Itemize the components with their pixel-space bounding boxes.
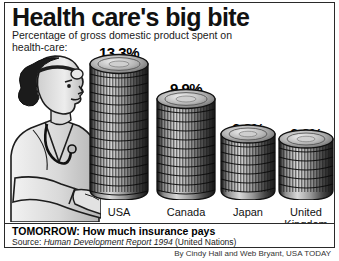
coin-stack-usa [88,50,150,200]
source-suffix: (United Nations) [173,237,237,247]
label-line-1: United [290,206,322,218]
tomorrow-banner: TOMORROW: How much insurance pays [5,223,334,237]
bar-label-japan: Japan [233,207,263,219]
page-title: Health care's big bite [12,4,249,30]
coin-stack-canada [155,86,217,200]
coin-stack-japan [219,122,277,200]
coin-stack-united-kingdom [277,127,335,200]
bar-label-canada: Canada [167,207,206,219]
infographic-root: Health care's big bite Percentage of gro… [0,0,339,261]
bar-group-japan: 6.8% Japan [219,44,277,222]
bar-group-united-kingdom: 6.6% United Kingdom United [277,44,335,222]
tomorrow-text: TOMORROW: How much insurance pays [12,225,215,237]
bar-group-canada: 9.9% Canada [155,44,217,222]
source-line: Source: Human Development Report 1994 (U… [12,237,236,247]
source-prefix: Source: [12,237,44,247]
source-report-title: Human Development Report 1994 [44,237,173,247]
credit-line: By Cindy Hall and Web Bryant, USA TODAY [0,249,339,258]
coin-chart-plot: 13.3% [5,44,334,222]
bar-label-usa: USA [108,207,131,219]
bar-group-usa: 13.3% [88,44,150,222]
